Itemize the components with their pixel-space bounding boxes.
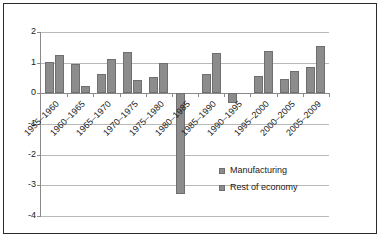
y-tick-label: 0	[10, 88, 36, 97]
y-tick	[37, 63, 41, 64]
gridline	[41, 32, 329, 33]
x-tick	[250, 93, 251, 97]
bar-manufacturing	[202, 74, 211, 93]
x-tick	[67, 93, 68, 97]
y-tick-label: -4	[10, 211, 36, 220]
x-tick	[146, 93, 147, 97]
bar-manufacturing	[45, 62, 54, 93]
bar-rest-of-economy	[107, 59, 116, 93]
gridline	[41, 124, 329, 125]
y-tick	[37, 93, 41, 94]
bar-rest-of-economy	[212, 53, 221, 93]
x-tick	[277, 93, 278, 97]
x-tick	[120, 93, 121, 97]
y-tick-label: -1	[10, 119, 36, 128]
bar-manufacturing	[149, 77, 158, 93]
bar-manufacturing	[280, 79, 289, 94]
bar-rest-of-economy	[81, 86, 90, 94]
chart-frame: 210-1-2-3-4 1955–19601960–19651965–19701…	[3, 3, 377, 234]
y-tick-label: 1	[10, 58, 36, 67]
x-tick	[224, 93, 225, 97]
x-tick	[329, 93, 330, 97]
x-tick	[303, 93, 304, 97]
legend-swatch-icon	[219, 168, 225, 174]
gridline	[41, 155, 329, 156]
bar-manufacturing	[97, 74, 106, 93]
bar-rest-of-economy	[316, 46, 325, 94]
bar-rest-of-economy	[159, 63, 168, 94]
bar-manufacturing	[254, 76, 263, 94]
x-tick	[93, 93, 94, 97]
legend-swatch-icon	[219, 185, 225, 191]
bar-manufacturing	[228, 93, 237, 103]
y-tick	[37, 185, 41, 186]
x-tick	[198, 93, 199, 97]
bar-rest-of-economy	[264, 51, 273, 93]
legend-label: Manufacturing	[230, 166, 287, 175]
y-tick	[37, 155, 41, 156]
bar-rest-of-economy	[133, 80, 142, 93]
legend-item[interactable]: Manufacturing	[219, 162, 298, 179]
axis-baseline	[41, 216, 329, 217]
y-tick-label: 2	[10, 27, 36, 36]
legend-label: Rest of economy	[230, 183, 298, 192]
bar-manufacturing	[71, 64, 80, 93]
y-tick-label: -3	[10, 180, 36, 189]
bar-manufacturing	[176, 93, 185, 193]
gridline	[41, 63, 329, 64]
chart-legend: ManufacturingRest of economy	[219, 162, 298, 196]
gridline	[41, 93, 329, 94]
bar-manufacturing	[123, 52, 132, 93]
y-tick	[37, 32, 41, 33]
bar-rest-of-economy	[55, 55, 64, 93]
bar-manufacturing	[306, 67, 315, 93]
legend-item[interactable]: Rest of economy	[219, 179, 298, 196]
bar-rest-of-economy	[290, 71, 299, 93]
x-tick	[172, 93, 173, 97]
y-tick-label: -2	[10, 150, 36, 159]
y-tick	[37, 124, 41, 125]
